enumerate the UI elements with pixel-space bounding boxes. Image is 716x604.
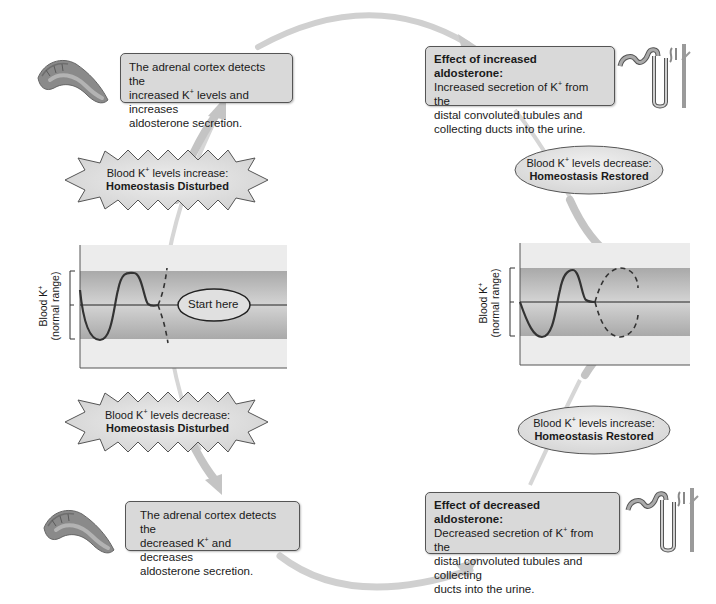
ylabel-line1: Blood K xyxy=(477,287,489,324)
burst-increase-line1-pre: Blood K xyxy=(107,167,146,179)
ylabel-line2: (normal range) xyxy=(49,272,61,341)
top-right-line2: distal convoluted tubules and xyxy=(434,109,582,121)
ellipse-decrease-line1-post: levels decrease: xyxy=(569,157,652,169)
burst-increase-text: Blood K+ levels increase: Homeostasis Di… xyxy=(95,167,240,193)
top-left-line1: The adrenal cortex detects the xyxy=(129,61,265,87)
ellipse-increase-text: Blood K+ levels increase: Homeostasis Re… xyxy=(524,417,664,443)
ellipse-decrease-line1-pre: Blood K xyxy=(526,157,565,169)
start-here-text: Start here xyxy=(188,298,239,310)
ylabel-line2: (normal range) xyxy=(489,269,501,338)
bottom-right-line1-pre: Decreased secretion of K xyxy=(434,527,563,539)
right-graph xyxy=(510,243,690,365)
ellipse-increase-line2: Homeostasis Restored xyxy=(534,430,653,442)
adrenal-gland-icon xyxy=(38,60,108,102)
start-here-label: Start here xyxy=(188,298,239,310)
bottom-left-line2-pre: decreased K xyxy=(140,537,205,549)
superscript-plus: + xyxy=(477,283,484,287)
bottom-left-line3: aldosterone secretion. xyxy=(140,565,253,577)
superscript-plus: + xyxy=(37,286,44,290)
arrow-top-arc xyxy=(258,15,478,50)
top-left-line3: aldosterone secretion. xyxy=(129,117,242,129)
top-right-line3: collecting ducts into the urine. xyxy=(434,123,586,135)
top-right-box: Effect of increased aldosterone: Increas… xyxy=(425,46,615,106)
nephron-icon xyxy=(628,488,698,552)
burst-decrease-line2: Homeostasis Disturbed xyxy=(106,422,229,434)
bottom-left-box: The adrenal cortex detects the decreased… xyxy=(125,501,300,551)
ellipse-increase-line1-post: levels increase: xyxy=(576,417,655,429)
nephron-icon xyxy=(620,44,690,108)
burst-increase-line1-post: levels increase: xyxy=(149,167,228,179)
burst-decrease-text: Blood K+ levels decrease: Homeostasis Di… xyxy=(95,409,240,435)
ellipse-decrease-text: Blood K+ levels decrease: Homeostasis Re… xyxy=(519,157,659,183)
adrenal-gland-icon xyxy=(44,510,114,552)
ellipse-increase-line1-pre: Blood K xyxy=(533,417,572,429)
left-graph xyxy=(70,245,287,368)
burst-increase-line2: Homeostasis Disturbed xyxy=(106,180,229,192)
burst-decrease-line1-pre: Blood K xyxy=(105,409,144,421)
left-graph-ylabel: Blood K+ (normal range) xyxy=(37,266,63,346)
top-right-line1-pre: Increased secretion of K xyxy=(434,81,558,93)
top-right-title: Effect of increased aldosterone: xyxy=(434,52,606,80)
burst-decrease-line1-post: levels decrease: xyxy=(148,409,231,421)
top-left-box: The adrenal cortex detects the increased… xyxy=(120,53,293,103)
top-left-line2-pre: increased K xyxy=(129,89,190,101)
bottom-right-title: Effect of decreased aldosterone: xyxy=(434,498,611,526)
ellipse-decrease-line2: Homeostasis Restored xyxy=(529,170,648,182)
bottom-right-box: Effect of decreased aldosterone: Decreas… xyxy=(425,492,620,554)
right-graph-ylabel: Blood K+ (normal range) xyxy=(477,263,503,343)
bottom-right-line3: ducts into the urine. xyxy=(434,583,534,595)
ylabel-line1: Blood K xyxy=(37,290,49,327)
bottom-left-line1: The adrenal cortex detects the xyxy=(140,509,276,535)
bottom-right-line2: distal convoluted tubules and collecting xyxy=(434,555,582,581)
